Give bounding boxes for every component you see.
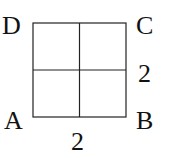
vertex-label-d: D <box>2 11 21 40</box>
side-label-right: 2 <box>138 59 151 88</box>
square-diagram: D C B A 2 2 <box>0 0 181 158</box>
side-label-bottom: 2 <box>71 127 84 156</box>
vertex-label-a: A <box>4 106 23 135</box>
vertex-label-b: B <box>136 106 153 135</box>
vertex-label-c: C <box>136 11 153 40</box>
